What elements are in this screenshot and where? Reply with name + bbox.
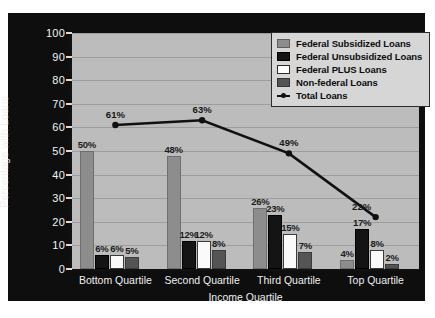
- bar: [197, 241, 211, 269]
- y-tick-mark: [66, 32, 72, 34]
- y-tick-label: 100: [46, 27, 65, 39]
- y-tick-mark: [66, 56, 72, 58]
- bar-value-label: 2%: [385, 252, 398, 263]
- bar: [370, 250, 384, 269]
- y-tick-label: 50: [52, 145, 65, 157]
- legend-item: Federal Subsidized Loans: [277, 37, 422, 50]
- chart-panel: Percentage with Loans 50%6%6%5%48%12%12%…: [8, 13, 425, 301]
- bar: [182, 241, 196, 269]
- swatch-federal-subsidized: [277, 39, 290, 48]
- y-tick-mark: [66, 268, 72, 270]
- y-tick-label: 10: [52, 239, 65, 251]
- y-tick-mark: [66, 221, 72, 223]
- legend-label: Total Loans: [296, 90, 348, 101]
- line-value-label: 22%: [352, 201, 371, 212]
- bar: [340, 260, 354, 269]
- x-axis-title: Income Quartile: [208, 291, 282, 303]
- y-tick-label: 70: [52, 98, 65, 110]
- line-marker-icon: [277, 91, 290, 100]
- bar: [110, 255, 124, 269]
- y-tick-mark: [66, 150, 72, 152]
- bar-value-label: 5%: [125, 245, 138, 256]
- bar: [355, 229, 369, 269]
- bar-value-label: 8%: [212, 238, 225, 249]
- bar: [212, 250, 226, 269]
- bar: [95, 255, 109, 269]
- swatch-federal-unsubsidized: [277, 52, 290, 61]
- legend-item: Federal Unsubsidized Loans: [277, 50, 422, 63]
- bar-value-label: 8%: [370, 238, 383, 249]
- y-tick-mark: [66, 126, 72, 128]
- y-tick-label: 60: [52, 121, 65, 133]
- bar-value-label: 4%: [340, 248, 353, 259]
- legend-label: Federal PLUS Loans: [296, 64, 387, 75]
- bar: [385, 264, 399, 269]
- line-value-label: 49%: [279, 137, 298, 148]
- bar: [253, 208, 267, 269]
- y-tick-label: 20: [52, 216, 65, 228]
- bar-value-label: 23%: [266, 203, 284, 214]
- x-tick-label: Second Quartile: [164, 274, 239, 286]
- y-tick-label: 80: [52, 74, 65, 86]
- bar: [283, 234, 297, 269]
- x-tick-label: Bottom Quartile: [79, 274, 152, 286]
- y-tick-mark: [66, 79, 72, 81]
- x-tick-label: Third Quartile: [257, 274, 321, 286]
- legend-label: Federal Subsidized Loans: [296, 38, 411, 49]
- y-tick-mark: [66, 244, 72, 246]
- y-tick-mark: [66, 174, 72, 176]
- swatch-non-federal: [277, 78, 290, 87]
- y-tick-mark: [66, 197, 72, 199]
- legend-label: Federal Unsubsidized Loans: [296, 51, 422, 62]
- bar-value-label: 6%: [95, 243, 108, 254]
- y-tick-label: 40: [52, 169, 65, 181]
- chart-screenshot: Percentage with Loans 50%6%6%5%48%12%12%…: [0, 0, 435, 318]
- y-tick-label: 30: [52, 192, 65, 204]
- bar-value-label: 7%: [299, 240, 312, 251]
- bar: [298, 252, 312, 269]
- y-axis-title: Percentage with Loans: [0, 96, 10, 208]
- legend-label: Non-federal Loans: [296, 77, 378, 88]
- line-value-label: 61%: [106, 109, 125, 120]
- bar-value-label: 15%: [281, 222, 299, 233]
- line-value-label: 63%: [193, 104, 212, 115]
- y-tick-label: 90: [52, 51, 65, 63]
- bar: [125, 257, 139, 269]
- legend-item: Non-federal Loans: [277, 76, 422, 89]
- bar-value-label: 17%: [353, 217, 371, 228]
- gridline: [72, 198, 419, 199]
- swatch-federal-plus: [277, 65, 290, 74]
- y-tick-label: 0: [59, 263, 65, 275]
- bar-value-label: 6%: [110, 243, 123, 254]
- bar-value-label: 12%: [194, 229, 212, 240]
- y-tick-mark: [66, 103, 72, 105]
- legend-item: Federal PLUS Loans: [277, 63, 422, 76]
- x-tick-label: Top Quartile: [347, 274, 404, 286]
- legend-item: Total Loans: [277, 89, 422, 102]
- chart-legend: Federal Subsidized LoansFederal Unsubsid…: [271, 32, 430, 107]
